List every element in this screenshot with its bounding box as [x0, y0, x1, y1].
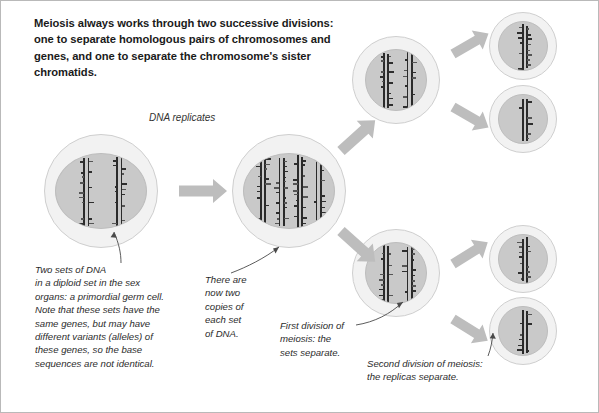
gene-band: [380, 76, 383, 78]
gene-band: [527, 246, 530, 248]
arrow-meiosis2-top-up: [448, 24, 495, 64]
gene-band: [321, 221, 326, 223]
gene-band: [79, 197, 84, 199]
gene-band: [122, 189, 127, 191]
chromosome-bar: [526, 26, 528, 69]
gene-band: [527, 34, 531, 36]
caption-there-are-now-two-copies: There are now two copies of each set of …: [205, 273, 275, 340]
gene-band: [115, 186, 117, 188]
gene-band: [381, 56, 383, 58]
arrow-meiosis2-top-down: [448, 97, 495, 137]
gene-band: [518, 37, 522, 39]
gene-band: [321, 180, 325, 182]
gene-band: [122, 173, 125, 175]
gene-band: [519, 27, 523, 29]
gene-band: [293, 179, 297, 181]
gene-band: [89, 187, 92, 189]
gene-band: [381, 71, 384, 73]
gene-band: [284, 207, 287, 209]
gene-band: [527, 50, 529, 52]
gene-band: [403, 76, 407, 78]
gene-band: [294, 163, 298, 165]
cell-gamete-bottom-1: [489, 225, 557, 293]
gene-band: [527, 350, 529, 352]
gene-band: [382, 81, 384, 83]
cell-gamete-top-1: [489, 12, 557, 80]
gene-band: [519, 53, 522, 55]
chromosome-bar: [264, 155, 266, 229]
gene-band: [80, 161, 84, 163]
cell-gamete-top-2: [489, 85, 557, 153]
gene-band: [284, 197, 286, 199]
gene-band: [519, 252, 523, 254]
cell-nucleus: [498, 94, 548, 144]
gene-band: [303, 186, 308, 188]
cell-nucleus: [498, 306, 548, 356]
gene-band: [517, 349, 522, 351]
cell-nucleus: [365, 49, 427, 111]
gene-band: [380, 274, 384, 276]
gene-band: [296, 200, 298, 202]
gene-band: [389, 253, 392, 255]
gene-band: [389, 82, 393, 84]
gene-band: [257, 191, 260, 193]
gene-band: [527, 38, 531, 40]
gene-band: [265, 158, 270, 160]
gene-band: [89, 202, 94, 204]
gene-band: [405, 291, 407, 293]
gene-band: [519, 107, 522, 109]
gene-band: [389, 56, 392, 58]
gene-band: [389, 274, 394, 276]
gene-band: [527, 271, 530, 273]
gene-band: [277, 218, 279, 220]
gene-band: [403, 106, 407, 108]
gene-band: [382, 253, 384, 255]
chromosome-bar: [121, 155, 123, 229]
gene-band: [276, 202, 279, 204]
caption-first-division: First division of meiosis: the sets sepa…: [280, 319, 370, 359]
gene-band: [265, 178, 269, 180]
gene-band: [519, 256, 523, 258]
gene-band: [519, 246, 523, 248]
gene-band: [276, 182, 279, 184]
gene-band: [527, 133, 530, 135]
gene-band: [412, 62, 416, 64]
figure-heading: Meiosis always works through two success…: [34, 15, 334, 80]
arrow-meiosis2-bottom-down: [447, 310, 493, 350]
gene-band: [89, 223, 94, 225]
gene-band: [404, 70, 408, 72]
gene-band: [527, 251, 531, 253]
gene-band: [381, 60, 384, 62]
caption-second-division: Second division of meiosis: the replicas…: [367, 357, 517, 384]
chromosome-bar: [297, 155, 299, 228]
gene-band: [294, 205, 298, 207]
gene-band: [412, 301, 416, 303]
gene-band: [115, 191, 117, 193]
gene-band: [527, 101, 532, 103]
gene-band: [321, 216, 326, 218]
gene-band: [389, 295, 394, 297]
gene-band: [293, 190, 298, 192]
gene-band: [518, 345, 522, 347]
gene-band: [518, 68, 523, 70]
gene-band: [113, 165, 117, 167]
gene-band: [122, 220, 125, 222]
gene-band: [122, 194, 125, 196]
gene-band: [303, 217, 307, 219]
gene-band: [265, 168, 267, 170]
chromosome-bar: [522, 310, 524, 354]
gene-band: [527, 59, 530, 61]
gene-band: [80, 182, 84, 184]
gene-band: [284, 177, 286, 179]
gene-band: [284, 181, 286, 183]
gene-band: [389, 93, 392, 95]
gene-band: [527, 117, 532, 119]
gene-band: [381, 108, 384, 110]
gene-band: [257, 186, 261, 188]
gene-band: [294, 194, 298, 196]
gene-band: [284, 187, 288, 189]
gene-band: [527, 266, 529, 268]
gene-band: [521, 278, 523, 280]
gene-band: [519, 339, 522, 341]
gene-band: [527, 314, 532, 316]
